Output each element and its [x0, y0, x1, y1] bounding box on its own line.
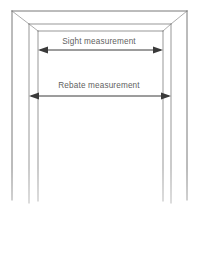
- mitre-line-top-left-inner: [29, 24, 38, 31]
- frame-measurement-diagram: Sight measurement Rebate measurement: [0, 0, 198, 272]
- rebate-measurement-dimension-arrow: [29, 92, 171, 99]
- mitre-joint-lines: [12, 11, 187, 31]
- mitre-line-top-right-outer: [171, 11, 187, 24]
- rebate-measurement-label: Rebate measurement: [0, 81, 198, 91]
- sight-measurement-dimension-arrow: [38, 46, 163, 53]
- sight-measurement-label: Sight measurement: [0, 37, 198, 47]
- mitre-line-top-right-inner: [163, 24, 171, 31]
- fade-mask-lower: [0, 168, 198, 272]
- mitre-line-top-left-outer: [12, 11, 29, 24]
- fade-overlay-rect: [0, 168, 198, 272]
- sight-arrowhead-left-icon: [38, 46, 48, 53]
- sight-arrowhead-right-icon: [153, 46, 163, 53]
- rebate-arrowhead-left-icon: [29, 92, 39, 99]
- rebate-arrowhead-right-icon: [161, 92, 171, 99]
